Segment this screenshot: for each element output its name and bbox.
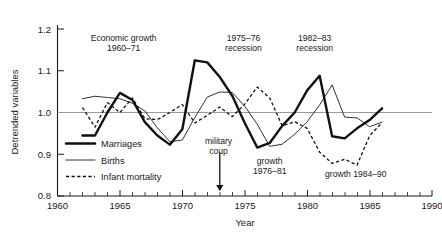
- annotation-line-1: military: [205, 136, 233, 146]
- military-coup-arrow: [216, 152, 223, 191]
- annotation-line-1: growth: [257, 156, 283, 166]
- legend-label-marriages: Marriages: [101, 139, 142, 149]
- x-tick-label: 1965: [109, 200, 130, 211]
- annotation-recession-1982-83: 1982–83 recession: [296, 33, 333, 54]
- x-tick-label: 1990: [421, 200, 442, 211]
- x-axis-tick-labels: 1960 1965 1970 1975 1980 1985 1990: [47, 200, 442, 211]
- series-line-marriages: [82, 60, 382, 147]
- y-axis-title: Detrended variables: [9, 69, 20, 154]
- x-tick-label: 1960: [47, 200, 68, 211]
- y-tick-label: 0.9: [38, 149, 51, 160]
- legend-label-births: Births: [101, 156, 125, 166]
- annotation-line-1: Economic growth: [91, 33, 157, 43]
- annotation-growth-1976-81: growth 1976–81: [253, 156, 287, 177]
- y-tick-label: 1.0: [38, 107, 51, 118]
- annotation-growth-1984-90: growth 1984–90: [325, 169, 387, 179]
- x-axis-major-ticks: [58, 190, 433, 196]
- annotation-line-2: recession: [225, 43, 262, 53]
- annotation-line-2: 1960–71: [107, 43, 141, 53]
- x-tick-label: 1985: [359, 200, 380, 211]
- legend-label-infant-mortality: Infant mortality: [101, 172, 162, 182]
- y-tick-label: 1.1: [38, 65, 51, 76]
- annotation-line-1: 1975–76: [227, 33, 261, 43]
- annotation-line-1: 1982–83: [298, 33, 332, 43]
- annotation-line-2: coup: [209, 146, 228, 156]
- y-tick-label: 1.2: [38, 24, 51, 35]
- x-tick-label: 1970: [172, 200, 193, 211]
- annotation-line-2: recession: [296, 43, 333, 53]
- annotation-line-2: 1976–81: [253, 166, 287, 176]
- annotation-recession-1975-76: 1975–76 recession: [225, 33, 262, 54]
- x-axis-title: Year: [235, 217, 254, 228]
- annotation-line-1: growth 1984–90: [325, 169, 387, 179]
- x-tick-label: 1975: [234, 200, 255, 211]
- annotation-military-coup: military coup: [205, 136, 233, 157]
- y-axis-tick-labels: 1.2 1.1 1.0 0.9 0.8: [38, 24, 51, 202]
- chart-legend: Marriages Births Infant mortality: [66, 139, 162, 182]
- annotation-economic-growth: Economic growth 1960–71: [91, 33, 157, 54]
- x-tick-label: 1980: [297, 200, 318, 211]
- detrended-variables-line-chart: Detrended variables 1.2 1.1 1.0 0.9 0.8: [0, 0, 442, 234]
- chart-figure: Detrended variables 1.2 1.1 1.0 0.9 0.8: [0, 0, 442, 234]
